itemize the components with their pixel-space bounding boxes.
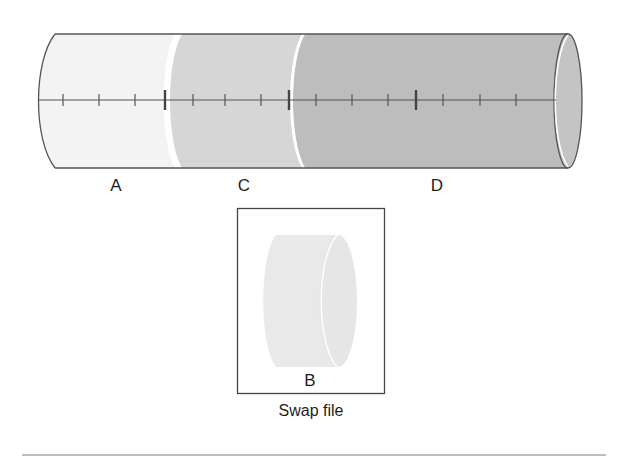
segment-c-region: [170, 34, 302, 168]
disk-diagram: [0, 0, 622, 466]
segment-label-d: D: [431, 177, 443, 194]
bottom-divider: [22, 454, 606, 456]
segment-a-region: [39, 34, 176, 168]
segment-d-region: [293, 34, 568, 168]
segment-label-b: B: [304, 372, 315, 389]
segment-label-a: A: [110, 177, 121, 194]
diagram-canvas: A C D B Swap file: [0, 0, 622, 466]
cylinder-end-cap: [554, 34, 582, 168]
swap-file-caption: Swap file: [279, 403, 344, 419]
swap-file-cylinder-end: [319, 235, 357, 367]
segment-label-c: C: [238, 177, 250, 194]
